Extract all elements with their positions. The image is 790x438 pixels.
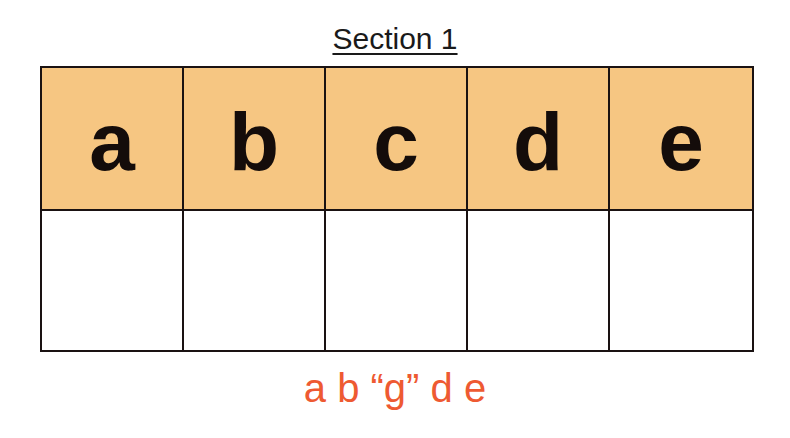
letter-grid: a b c d e [40,66,754,352]
section-title-text: Section 1 [332,22,457,55]
letter-cell-e: e [610,68,752,211]
letter-cell-b: b [184,68,326,211]
answer-box-5[interactable] [610,211,752,350]
answer-box-3[interactable] [326,211,468,350]
letter-cell-c: c [326,68,468,211]
answer-box-2[interactable] [184,211,326,350]
answer-box-4[interactable] [468,211,610,350]
letter-cell-a: a [42,68,184,211]
answer-text: a b “g” d e [0,366,790,411]
letter-cell-d: d [468,68,610,211]
section-title: Section 1 [0,22,790,56]
answer-box-1[interactable] [42,211,184,350]
